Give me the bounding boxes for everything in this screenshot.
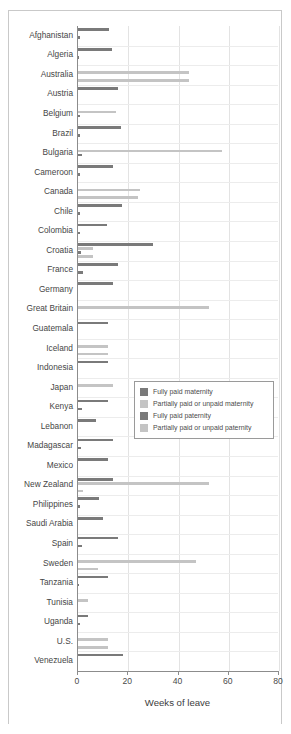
bar-group — [78, 515, 278, 535]
category-label: Spain — [1, 539, 73, 548]
legend-item[interactable]: Partially paid or unpaid paternity — [140, 422, 268, 434]
x-tick-mark — [278, 671, 279, 675]
category-label: Great Britain — [1, 304, 73, 313]
category-label: Chile — [1, 207, 73, 216]
bar — [78, 654, 123, 657]
bar — [78, 204, 122, 207]
category-label: Tunisia — [1, 598, 73, 607]
bar — [78, 263, 118, 266]
category-label: France — [1, 265, 73, 274]
bar-group — [78, 202, 278, 222]
bar — [78, 497, 99, 500]
category-label: Cameroon — [1, 168, 73, 177]
category-label: Japan — [1, 383, 73, 392]
bar — [78, 150, 222, 153]
category-label: Croatia — [1, 246, 73, 255]
bar — [78, 243, 153, 246]
category-label: Colombia — [1, 226, 73, 235]
x-tick-label: 60 — [223, 676, 233, 686]
bar-group — [78, 182, 278, 202]
bar — [78, 56, 79, 59]
bar-group — [78, 241, 278, 261]
bar — [78, 115, 80, 118]
bar-group — [78, 104, 278, 124]
category-label: Algeria — [1, 50, 73, 59]
bar — [78, 408, 82, 411]
bar — [78, 232, 80, 235]
bar — [78, 361, 108, 364]
bar-group — [78, 46, 278, 66]
category-label: Brazil — [1, 129, 73, 138]
x-tick-mark — [228, 671, 229, 675]
category-label: Austria — [1, 89, 73, 98]
bar-group — [78, 651, 278, 671]
bar-group — [78, 593, 278, 613]
bar — [78, 584, 79, 587]
bar — [78, 71, 189, 74]
bar — [78, 48, 112, 51]
bar — [78, 247, 93, 250]
plot-area — [77, 26, 278, 671]
category-label: Afghanistan — [1, 31, 73, 40]
category-label: Kenya — [1, 402, 73, 411]
bar-group — [78, 456, 278, 476]
x-tick-label: 40 — [173, 676, 183, 686]
legend-swatch-icon — [140, 412, 148, 420]
legend-item[interactable]: Fully paid maternity — [140, 386, 268, 398]
bar — [78, 623, 80, 626]
category-label: Belgium — [1, 109, 73, 118]
bar-group — [78, 554, 278, 574]
bar-group — [78, 358, 278, 378]
category-label: Philippines — [1, 500, 73, 509]
gridline-vertical — [279, 26, 280, 671]
bar — [78, 478, 113, 481]
bar-group — [78, 476, 278, 496]
bar-group — [78, 632, 278, 652]
category-label: Germany — [1, 285, 73, 294]
bar — [78, 560, 196, 563]
legend-swatch-icon — [140, 424, 148, 432]
bar — [78, 568, 98, 571]
legend-label: Partially paid or unpaid maternity — [153, 400, 253, 408]
bar — [78, 134, 80, 137]
category-label: Bulgaria — [1, 148, 73, 157]
bar — [78, 87, 118, 90]
bar — [78, 646, 108, 649]
bar-group — [78, 261, 278, 281]
bar — [78, 490, 83, 493]
bar-group — [78, 221, 278, 241]
bar-group — [78, 319, 278, 339]
bar — [78, 345, 108, 348]
bar — [78, 271, 83, 274]
bar-group — [78, 26, 278, 46]
category-label: Guatemala — [1, 324, 73, 333]
bar-group — [78, 436, 278, 456]
category-label: Indonesia — [1, 363, 73, 372]
bar — [78, 173, 80, 176]
category-label: Lebanon — [1, 422, 73, 431]
bar — [78, 322, 108, 325]
category-label: New Zealand — [1, 480, 73, 489]
legend-swatch-icon — [140, 388, 148, 396]
category-label: Uganda — [1, 617, 73, 626]
category-label: Iceland — [1, 344, 73, 353]
bar-group — [78, 143, 278, 163]
chart-figure: AfghanistanAlgeriaAustraliaAustriaBelgiu… — [0, 0, 291, 734]
bar — [78, 36, 80, 39]
category-label: Canada — [1, 187, 73, 196]
x-tick-label: 0 — [75, 676, 80, 686]
bar-group — [78, 612, 278, 632]
bar — [78, 599, 88, 602]
bar — [78, 212, 80, 215]
legend-item[interactable]: Fully paid paternity — [140, 410, 268, 422]
bar — [78, 251, 81, 254]
bar — [78, 447, 81, 450]
x-tick-label: 20 — [122, 676, 132, 686]
bar — [78, 384, 113, 387]
bar-group — [78, 85, 278, 105]
bar — [78, 545, 82, 548]
bar — [78, 439, 113, 442]
legend-item[interactable]: Partially paid or unpaid maternity — [140, 398, 268, 410]
bar — [78, 111, 116, 114]
bar — [78, 537, 118, 540]
